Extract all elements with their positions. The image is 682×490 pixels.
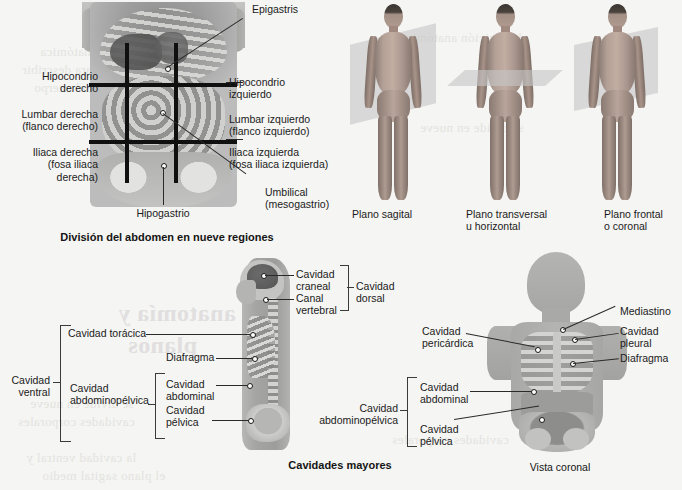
- grid-horizontal-lower: [89, 140, 237, 144]
- grid-vertical-right: [174, 43, 178, 183]
- label-cavidad-dorsal: Cavidad dorsal: [356, 280, 395, 305]
- lateral-body-illustration: [228, 258, 304, 450]
- label-cavidad-abdominal-lateral: Cavidad abdominal: [166, 378, 214, 403]
- figure-torso: [599, 32, 636, 94]
- cavidad-toracica-point: [250, 332, 256, 338]
- caption-cavidades-mayores: Cavidades mayores: [260, 459, 420, 471]
- bracket-tick-abdominopelvica-inner-lateral: [148, 404, 155, 405]
- figure-head: [384, 4, 403, 28]
- cavidad-pelvica-point-lateral: [248, 418, 254, 424]
- cavidad-craneal-point: [261, 273, 267, 279]
- ghost-text-6: el plano sagital medio: [42, 468, 165, 484]
- bracket-tick-cavidad-dorsal: [347, 287, 354, 288]
- label-cavidad-pelvica-lateral: Cavidad pélvica: [166, 404, 205, 429]
- label-cavidad-ventral: Cavidad ventral: [0, 374, 50, 399]
- label-umbilical: Umbilical (mesogastrio): [265, 186, 329, 211]
- label-cavidad-toracica: Cavidad torácica: [68, 327, 146, 339]
- figure-right-leg: [618, 116, 632, 200]
- label-diafragma-coronal: Diafragma: [620, 352, 668, 364]
- label-lumbar-izquierdo: Lumbar izquierdo (flanco izquierdo): [229, 113, 310, 138]
- cavidad-abdominal-leader-lateral: [216, 385, 247, 386]
- caption-abdomen-regions: División del abdomen en nueve regiones: [22, 231, 312, 243]
- transverse-plane-shape: [447, 70, 563, 86]
- label-cavidad-craneal: Cavidad craneal: [296, 268, 335, 293]
- coronal-right-hip-shape: [563, 428, 589, 450]
- label-cavidad-abdominal-coronal: Cavidad abdominal: [420, 381, 468, 406]
- label-mediastino: Mediastino: [620, 305, 671, 317]
- cavidad-pelvica-point-coronal: [539, 417, 545, 423]
- lateral-ribcage-shape: [247, 316, 275, 378]
- figure-head: [496, 4, 515, 28]
- caption-vista-coronal: Vista coronal: [505, 461, 615, 473]
- figure-sagittal: [348, 4, 438, 200]
- label-epigastris: Epigastris: [252, 3, 298, 15]
- hipogastrio-point: [161, 163, 167, 169]
- diafragma-leader-lateral: [216, 358, 252, 359]
- coronal-sternum-shape: [553, 332, 561, 394]
- intestines-shape: [102, 76, 225, 162]
- label-cavidad-abdominopelvica-coronal: Cavidad abdominopélvica: [310, 402, 398, 427]
- ghost-title-0: anatomía y: [118, 300, 236, 327]
- label-hipocondrio-izquierdo: Hipocondrio izquierdo: [229, 76, 285, 101]
- label-plano-frontal: Plano frontal o coronal: [604, 208, 663, 233]
- label-iliaca-izquierda: Iliaca izquierda (fosa iliaca izquierda): [229, 146, 328, 171]
- cavidad-abdominal-point-coronal: [531, 389, 537, 395]
- coronal-head-shape: [527, 252, 585, 314]
- textbook-page: la posición anatómica referencia para de…: [0, 0, 682, 490]
- bracket-abdominopelvica-inner-lateral: [155, 373, 165, 439]
- bracket-tick-cavidad-ventral: [53, 382, 60, 383]
- figure-frontal: [572, 4, 662, 200]
- label-cavidad-pleural: Cavidad pleural: [620, 325, 659, 350]
- figure-transverse: [460, 4, 550, 200]
- cavidad-pericardica-point: [535, 347, 541, 353]
- figure-left-leg: [378, 116, 392, 200]
- bracket-tick-abdominopelvica-coronal: [400, 410, 407, 411]
- label-iliaca-derecha: Iliaca derecha (fosa iliaca derecha): [2, 146, 98, 183]
- label-canal-vertebral: Canal vertebral: [296, 292, 337, 317]
- cavidad-abdominal-leader-coronal: [470, 391, 531, 392]
- cavidad-pelvica-leader-lateral: [212, 420, 248, 421]
- bracket-abdominopelvica-coronal: [407, 377, 417, 447]
- figure-head: [608, 4, 627, 28]
- label-lumbar-derecha: Lumbar derecha (flanco derecho): [2, 108, 98, 133]
- label-cavidad-pericardica: Cavidad pericárdica: [422, 325, 473, 350]
- canal-vertebral-point: [263, 297, 269, 303]
- lateral-face-shape: [236, 280, 256, 304]
- grid-vertical-left: [125, 43, 129, 183]
- cavidad-toracica-leader: [146, 334, 250, 335]
- figure-torso: [375, 32, 412, 94]
- ghost-text-5: la cavidad ventral y: [26, 450, 136, 466]
- stomach-shape: [154, 32, 188, 64]
- coronal-body-illustration: [487, 252, 627, 452]
- label-plano-sagital: Plano sagital: [352, 208, 412, 220]
- figure-left-leg: [602, 116, 616, 200]
- diafragma-point-lateral: [252, 356, 258, 362]
- figure-left-leg: [490, 116, 504, 200]
- label-hipogastrio: Hipogastrio: [123, 207, 203, 219]
- cavidad-abdominal-point-lateral: [247, 383, 253, 389]
- iliaca-izquierda-leader: [226, 139, 243, 140]
- label-hipocondrio-derecho: Hipocondrio derecho: [5, 70, 98, 95]
- cavidad-craneal-leader: [265, 275, 294, 276]
- grid-horizontal-upper: [89, 83, 237, 87]
- label-cavidad-pelvica-coronal: Cavidad pélvica: [420, 423, 459, 448]
- label-plano-transversal: Plano transversal u horizontal: [466, 208, 547, 233]
- figure-right-leg: [506, 116, 520, 200]
- hipogastrio-leader: [163, 167, 164, 205]
- label-cavidad-abdominopelvica-lateral: Cavidad abdominopélvica: [70, 382, 149, 407]
- figure-right-leg: [394, 116, 408, 200]
- label-diafragma-lateral: Diafragma: [166, 351, 214, 363]
- coronal-left-hip-shape: [525, 428, 551, 450]
- ghost-text-4: cavidades corporales: [18, 414, 135, 430]
- canal-vertebral-leader: [267, 299, 294, 300]
